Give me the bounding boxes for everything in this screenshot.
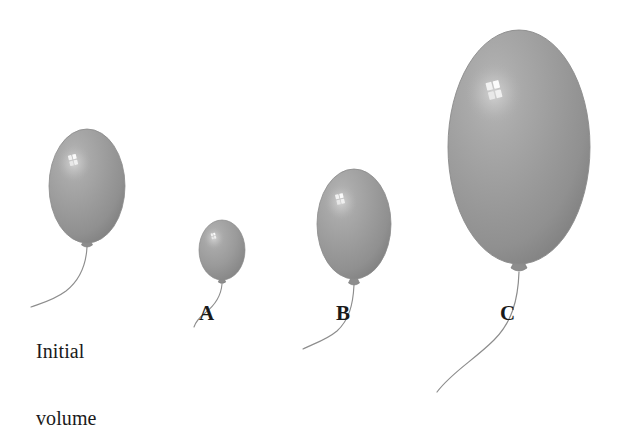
balloon-body-b bbox=[317, 169, 391, 279]
label-balloon-b: B bbox=[336, 302, 350, 326]
balloon-body-reference bbox=[49, 129, 125, 243]
label-initial-volume-line2: volume bbox=[36, 407, 97, 429]
label-balloon-c: C bbox=[500, 302, 515, 326]
label-initial-volume-line1: Initial bbox=[36, 340, 97, 362]
balloon-glow-a bbox=[204, 227, 224, 249]
balloon-glow-b bbox=[325, 184, 357, 220]
label-initial-volume: Initial volume bbox=[36, 295, 97, 430]
balloon-figure: Initial volume A B C bbox=[0, 0, 625, 430]
balloon-body-c bbox=[448, 30, 590, 264]
balloon-glow-reference bbox=[57, 144, 91, 182]
balloon-body-a bbox=[199, 220, 245, 280]
label-balloon-a: A bbox=[199, 302, 214, 326]
